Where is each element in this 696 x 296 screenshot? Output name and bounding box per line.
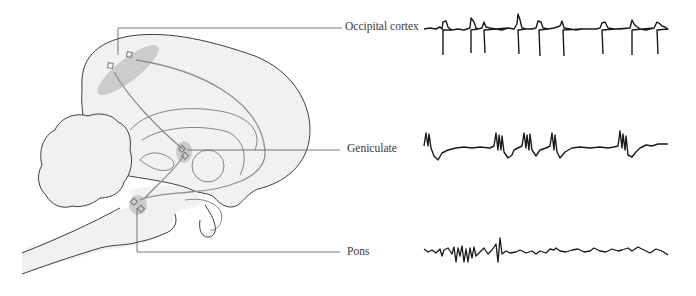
trace-occipital-cortex [424, 14, 668, 56]
label-geniculate: Geniculate [347, 143, 397, 155]
label-pons: Pons [347, 246, 369, 258]
trace-geniculate [424, 131, 668, 160]
pituitary-outline [200, 205, 216, 237]
label-occipital-cortex: Occipital cortex [345, 21, 419, 33]
cerebellum [39, 114, 132, 207]
geniculate-highlight [176, 141, 192, 163]
trace-pons [424, 238, 668, 262]
